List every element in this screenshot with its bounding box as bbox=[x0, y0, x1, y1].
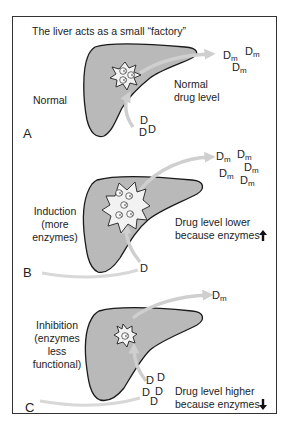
condition-label-line3: enzymes) bbox=[32, 231, 78, 243]
enzyme-icon bbox=[120, 68, 127, 75]
condition-label-line3: less bbox=[48, 345, 67, 357]
enzyme-icon bbox=[128, 72, 135, 79]
result-label-line2: because enzymes bbox=[175, 398, 260, 410]
liver-factory-diagram: The liver acts as a small “factory” Norm… bbox=[0, 0, 286, 426]
enzyme-icon bbox=[120, 77, 127, 84]
condition-label-line4: functional) bbox=[33, 358, 81, 370]
drug-symbol: D bbox=[157, 371, 165, 383]
result-label-line2: because enzymes bbox=[175, 229, 260, 241]
result-label-line1: Normal bbox=[174, 78, 208, 90]
result-label-line2: drug level bbox=[174, 91, 220, 103]
diagram-title: The liver acts as a small “factory” bbox=[32, 25, 187, 37]
enzyme-icon bbox=[122, 333, 129, 340]
enzyme-icon bbox=[126, 193, 133, 200]
drug-symbol: D bbox=[142, 386, 150, 398]
enzyme-icon bbox=[127, 211, 134, 218]
condition-label-line1: Inhibition bbox=[36, 319, 78, 331]
condition-label-line2: (more bbox=[41, 218, 69, 230]
panel-letter: B bbox=[23, 265, 32, 280]
condition-label-line2: (enzymes bbox=[34, 332, 80, 344]
enzyme-icon bbox=[116, 212, 123, 219]
condition-label: Normal bbox=[33, 94, 67, 106]
panel-letter: C bbox=[25, 400, 34, 415]
drug-symbol: D bbox=[140, 114, 148, 126]
result-label-line1: Drug level lower bbox=[175, 216, 251, 228]
drug-symbol: D bbox=[150, 395, 158, 407]
condition-label-line1: Induction bbox=[34, 205, 77, 217]
drug-symbol: D bbox=[140, 262, 148, 274]
enzyme-icon bbox=[121, 202, 128, 209]
drug-symbol: D bbox=[148, 123, 156, 135]
drug-symbol: D bbox=[146, 374, 154, 386]
drug-symbol: D bbox=[139, 126, 147, 138]
enzyme-icon bbox=[116, 190, 123, 197]
panel-letter: A bbox=[23, 126, 32, 141]
result-label-line1: Drug level higher bbox=[175, 385, 255, 397]
